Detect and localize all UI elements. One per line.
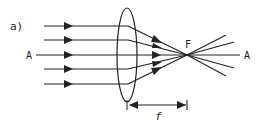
focal-length-dimension (129, 100, 187, 110)
diverging-rays (187, 35, 240, 76)
incoming-rays (36, 22, 128, 88)
converging-rays (128, 26, 187, 84)
panel-label: a) (10, 20, 23, 33)
focal-point-label: F (185, 39, 191, 50)
outgoing-axis-label: A (244, 50, 250, 61)
focal-length-label: f (155, 110, 162, 123)
lens-diagram: a) A F A (0, 0, 259, 124)
incoming-axis-label: A (26, 50, 32, 61)
